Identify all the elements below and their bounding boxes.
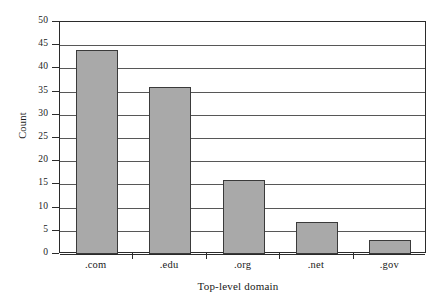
y-axis-tick: [52, 160, 59, 161]
y-axis-tick-label: 10: [18, 202, 48, 212]
bar: [76, 50, 118, 254]
bar: [369, 240, 411, 254]
y-axis-tick: [52, 183, 59, 184]
gridline: [60, 254, 425, 255]
plot-area: [59, 21, 426, 253]
y-axis-tick-label: 20: [18, 155, 48, 165]
y-axis-tick: [52, 91, 59, 92]
y-axis-tick-label: 50: [18, 16, 48, 26]
y-axis-tick: [52, 207, 59, 208]
y-axis-tick-label: 40: [18, 62, 48, 72]
x-axis-category-label: .gov: [349, 259, 429, 270]
x-axis-category-label: .org: [203, 259, 283, 270]
y-axis-tick-label: 5: [18, 225, 48, 235]
y-axis-tick: [52, 44, 59, 45]
y-axis-tick: [52, 137, 59, 138]
bar: [149, 87, 191, 254]
y-axis-tick: [52, 230, 59, 231]
y-axis-tick-label: 0: [18, 248, 48, 258]
y-axis-tick: [52, 253, 59, 254]
y-axis-title: Count: [17, 86, 28, 166]
y-axis-tick-label: 35: [18, 86, 48, 96]
y-axis-tick-label: 45: [18, 39, 48, 49]
gridline: [60, 45, 425, 46]
y-axis-tick-label: 15: [18, 178, 48, 188]
x-axis-title: Top-level domain: [48, 280, 428, 292]
x-axis-category-label: .net: [276, 259, 356, 270]
y-axis-tick: [52, 67, 59, 68]
y-axis-tick: [52, 114, 59, 115]
bar-chart-figure: Count 05101520253035404550 .com.edu.org.…: [0, 0, 444, 304]
y-axis-tick-label: 30: [18, 109, 48, 119]
bar: [296, 222, 338, 254]
x-axis-category-label: .com: [56, 259, 136, 270]
y-axis-tick: [52, 21, 59, 22]
x-axis-category-label: .edu: [129, 259, 209, 270]
y-axis-tick-label: 25: [18, 132, 48, 142]
bar: [223, 180, 265, 254]
